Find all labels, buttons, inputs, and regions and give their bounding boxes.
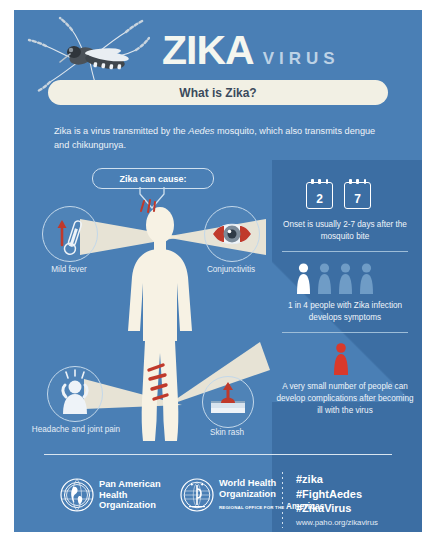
paho-name-line-1: Pan American — [99, 479, 161, 489]
intro-text-italic: Aedes — [188, 126, 214, 136]
paho-website-url[interactable]: www.paho.org/zikavirus — [296, 518, 378, 527]
banner-label: What is Zika? — [179, 86, 256, 100]
inflamed-eye-icon — [205, 207, 259, 261]
intro-text-before: Zika is a virus transmitted by the — [54, 126, 188, 136]
panel-divider-2 — [282, 332, 408, 333]
symptom-circle-headache — [47, 366, 103, 422]
paho-logo: Pan American Health Organization — [60, 478, 161, 512]
symptom-label-skin-rash: Skin rash — [192, 428, 262, 437]
single-person-red-icon — [332, 343, 350, 375]
intro-paragraph: Zika is a virus transmitted by the Aedes… — [54, 124, 384, 153]
what-is-zika-banner: What is Zika? — [48, 80, 388, 105]
symptom-circle-conjunctivitis — [204, 206, 260, 262]
headache-pain-mark-icon — [137, 198, 159, 214]
symptom-circle-skin-rash — [202, 376, 254, 428]
calendar-value-2: 2 — [316, 192, 323, 206]
hashtag-fightaedes: #FightAedes — [296, 487, 378, 502]
title-main: ZIKA — [162, 30, 254, 71]
who-name-line-2: Organization — [219, 489, 276, 499]
zika-infographic-poster: ZIKA VIRUS What is Zika? Zika is a virus… — [14, 10, 422, 532]
person-icon-dim-3 — [358, 263, 375, 294]
poster-title: ZIKA VIRUS — [162, 30, 340, 71]
footer-dotted-separator — [282, 472, 283, 528]
person-icon-highlighted — [295, 263, 312, 294]
joint-pain-mark-icon — [145, 362, 171, 404]
symptom-label-headache: Headache and joint pain — [21, 425, 131, 434]
calendar-icon-7: 7 — [344, 182, 371, 209]
paho-logo-text: Pan American Health Organization — [99, 479, 161, 512]
human-body-silhouette-icon — [118, 205, 202, 445]
hashtag-list: #zika #FightAedes #ZikaVirus www.paho.or… — [296, 472, 378, 527]
paho-globe-logo-icon — [60, 478, 94, 512]
calendar-value-7: 7 — [354, 192, 361, 206]
hashtag-zika: #zika — [296, 472, 378, 487]
fact-text-symptom-ratio: 1 in 4 people with Zika infection develo… — [275, 300, 415, 324]
symptom-label-conjunctivitis: Conjunctivitis — [196, 265, 266, 274]
person-headache-icon — [48, 367, 102, 421]
panel-divider-1 — [282, 251, 408, 252]
who-name-line-1: World Health — [219, 478, 276, 488]
fact-text-onset: Onset is usually 2-7 days after the mosq… — [275, 219, 415, 243]
title-sub: VIRUS — [263, 50, 340, 67]
thermometer-up-arrow-icon — [43, 207, 97, 261]
who-emblem-logo-icon — [180, 478, 214, 512]
person-icon-dim-1 — [316, 263, 333, 294]
fact-text-complications: A very small number of people can develo… — [275, 381, 415, 417]
people-group-icon — [295, 263, 375, 294]
paho-name-line-2: Health — [99, 490, 127, 500]
person-icon-dim-2 — [337, 263, 354, 294]
symptom-circle-mild-fever — [42, 206, 98, 262]
callout-label: Zika can cause: — [119, 174, 186, 184]
who-sub-small: REGIONAL OFFICE FOR THE — [219, 505, 285, 510]
skin-rash-bump-icon — [203, 377, 253, 427]
symptom-label-mild-fever: Mild fever — [34, 265, 104, 274]
hashtag-zikavirus: #ZikaVirus — [296, 501, 378, 516]
paho-name-line-3: Organization — [99, 500, 156, 510]
footer-divider — [44, 454, 392, 455]
calendar-icon-2: 2 — [306, 182, 333, 209]
